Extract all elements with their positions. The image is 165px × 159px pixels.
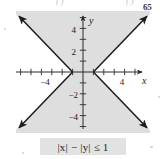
y-tick-label-minus-4: −4 [68, 112, 78, 122]
y-tick-label-2: 2 [72, 47, 77, 57]
scan-speck [150, 146, 153, 148]
y-tick-label-minus-2: −2 [68, 90, 78, 100]
caption-box: |x| − |y| ≤ 1 [40, 138, 126, 155]
plot-area: y x −4 4 4 2 −2 −4 [16, 11, 150, 133]
scan-speck [4, 28, 6, 30]
x-tick-label-minus-4: −4 [40, 77, 50, 87]
y-axis-label: y [88, 15, 94, 26]
inequality-caption: |x| − |y| ≤ 1 [57, 141, 108, 153]
y-tick-label-4: 4 [72, 25, 77, 35]
x-tick-label-4: 4 [120, 77, 125, 87]
scan-speck [158, 96, 160, 98]
x-axis-label: x [141, 75, 147, 86]
scan-speck [22, 152, 24, 154]
figure-absolute-value-inequality-graph: y x −4 4 4 2 −2 −4 |x| − |y| ≤ 1 [0, 0, 165, 159]
graph-svg: y x −4 4 4 2 −2 −4 [16, 11, 150, 133]
